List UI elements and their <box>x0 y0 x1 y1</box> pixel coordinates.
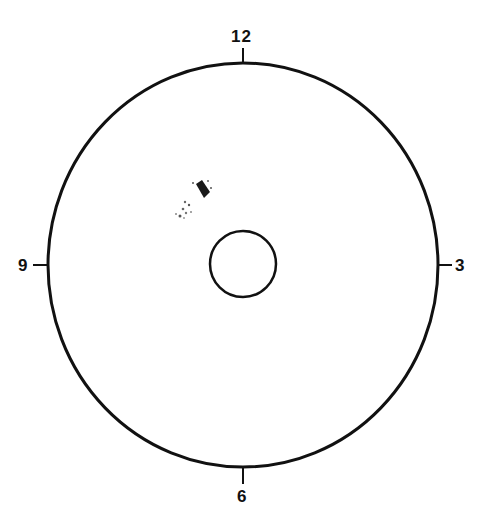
label-9-oclock: 9 <box>18 257 27 274</box>
lesion-mark <box>175 180 212 219</box>
clock-position-diagram <box>0 0 477 531</box>
inner-circle <box>210 231 276 297</box>
outer-ellipse <box>48 63 438 467</box>
label-3-oclock: 3 <box>455 257 464 274</box>
label-6-oclock: 6 <box>237 488 246 505</box>
label-12-oclock: 12 <box>231 28 252 45</box>
